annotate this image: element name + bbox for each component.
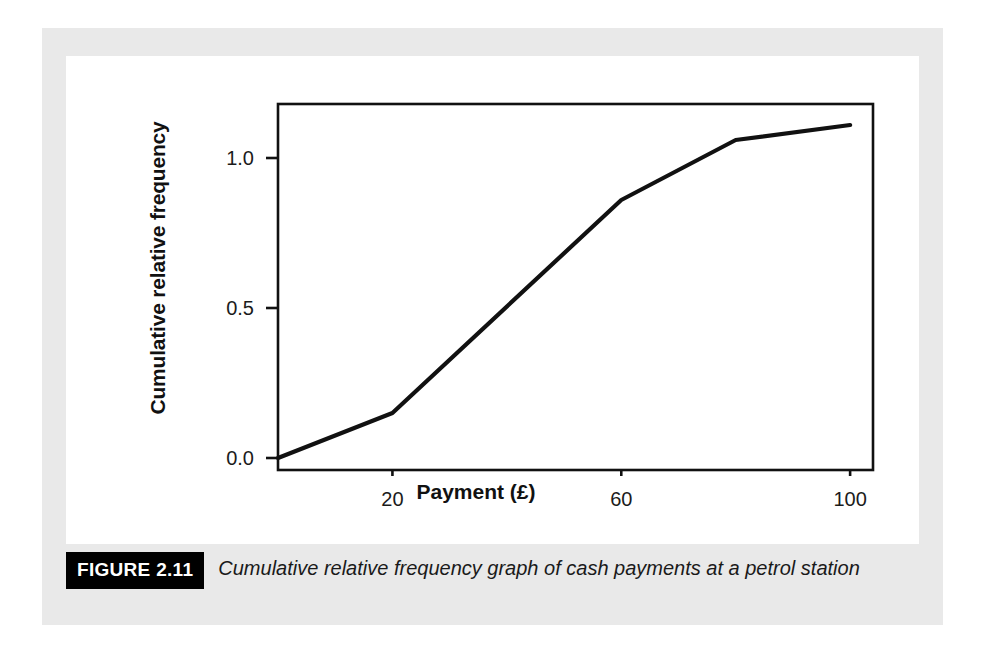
figure-caption: FIGURE 2.11Cumulative relative frequency… <box>66 552 919 589</box>
chart-card: 2060100 0.00.51.0 Cumulative relative fr… <box>66 56 919 544</box>
x-axis-title: Payment (£) <box>66 480 886 504</box>
y-tick-label-1.0: 1.0 <box>196 147 254 170</box>
y-tick-label-0.5: 0.5 <box>196 297 254 320</box>
y-axis-title: Cumulative relative frequency <box>146 108 170 428</box>
figure-caption-text: Cumulative relative frequency graph of c… <box>218 557 859 579</box>
cumulative-frequency-line <box>278 125 850 458</box>
y-tick-label-0.0: 0.0 <box>196 447 254 470</box>
figure-number-badge: FIGURE 2.11 <box>66 552 204 589</box>
plot-frame <box>278 104 873 470</box>
figure-panel: 2060100 0.00.51.0 Cumulative relative fr… <box>42 28 943 625</box>
chart-plot-area: 2060100 0.00.51.0 Cumulative relative fr… <box>66 56 919 544</box>
y-axis-ticks <box>266 158 278 458</box>
chart-svg <box>66 56 919 476</box>
